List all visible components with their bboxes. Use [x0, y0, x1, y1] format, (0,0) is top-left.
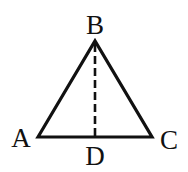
label-a: A — [11, 123, 31, 153]
label-c: C — [160, 125, 178, 155]
triangle-diagram: B A C D — [0, 0, 188, 172]
label-d: D — [85, 141, 105, 171]
label-b: B — [86, 10, 104, 40]
